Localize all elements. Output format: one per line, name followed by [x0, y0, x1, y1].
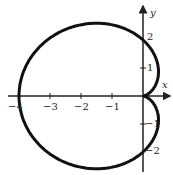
tick-x-m4: −4 [8, 101, 23, 112]
tick-x-m1: −1 [105, 101, 120, 112]
x-axis-label: x [162, 79, 168, 90]
tick-y-m1: −1 [145, 118, 160, 129]
tick-y-1: 1 [147, 62, 153, 73]
tick-y-m2: −2 [145, 145, 160, 156]
tick-y-2: 2 [147, 31, 153, 42]
tick-x-m3: −3 [43, 101, 58, 112]
tick-x-m2: −2 [74, 101, 89, 112]
y-axis-label: y [149, 7, 156, 18]
cardioid-plot: −4 −3 −2 −1 2 1 −1 −2 x y [0, 0, 173, 175]
